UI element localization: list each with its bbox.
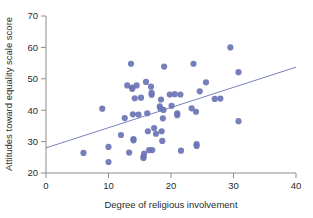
scatter-plot-figure: 203040506070 010203040 Degree of religio… <box>0 0 313 218</box>
scatter-point <box>197 88 203 94</box>
scatter-point <box>118 132 124 138</box>
scatter-point <box>190 61 196 67</box>
scatter-point <box>144 110 150 116</box>
scatter-point <box>172 91 178 97</box>
scatter-point <box>159 138 165 144</box>
scatter-point <box>132 95 138 101</box>
scatter-point <box>134 82 140 88</box>
scatter-point <box>151 125 157 131</box>
scatter-point <box>122 115 128 121</box>
y-axis-tick-label: 70 <box>27 10 38 21</box>
x-axis-tick-label: 30 <box>228 180 239 191</box>
scatter-point <box>161 63 167 69</box>
x-axis-tick-label: 40 <box>291 180 302 191</box>
scatter-point <box>158 96 164 102</box>
y-axis-tick-label: 30 <box>27 136 38 147</box>
scatter-point <box>203 79 209 85</box>
chart-canvas: 203040506070 010203040 Degree of religio… <box>0 0 313 218</box>
scatter-point <box>135 111 141 117</box>
y-axis-tick-label: 20 <box>27 167 38 178</box>
scatter-point <box>105 144 111 150</box>
scatter-point <box>235 118 241 124</box>
x-axis-tick-label: 10 <box>103 180 114 191</box>
scatter-point <box>227 44 233 50</box>
scatter-point <box>145 128 151 134</box>
scatter-point <box>212 96 218 102</box>
scatter-point <box>159 128 165 134</box>
scatter-point <box>178 148 184 154</box>
scatter-point <box>126 149 132 155</box>
scatter-point <box>174 110 180 116</box>
scatter-point <box>193 109 199 115</box>
y-axis-tick-label: 40 <box>27 105 38 116</box>
scatter-point <box>138 95 144 101</box>
scatter-point <box>148 84 154 90</box>
scatter-point <box>105 159 111 165</box>
scatter-point <box>217 95 223 101</box>
scatter-point <box>235 69 241 75</box>
scatter-point <box>130 137 136 143</box>
scatter-point <box>149 92 155 98</box>
scatter-point <box>160 107 166 113</box>
scatter-point <box>169 103 175 109</box>
scatter-point <box>177 91 183 97</box>
x-axis-tick-label: 0 <box>43 180 48 191</box>
y-axis-title: Attitudes toward equality scale score <box>3 17 14 171</box>
scatter-point <box>153 131 159 137</box>
scatter-point <box>130 111 136 117</box>
x-axis-title: Degree of religious involvement <box>104 199 237 210</box>
scatter-point <box>128 61 134 67</box>
x-axis-tick-label: 20 <box>166 180 177 191</box>
scatter-point <box>141 150 147 156</box>
y-axis-tick-label: 50 <box>27 73 38 84</box>
scatter-point <box>160 115 166 121</box>
scatter-point <box>149 147 155 153</box>
y-axis-tick-label: 60 <box>27 42 38 53</box>
scatter-point <box>80 150 86 156</box>
scatter-point <box>143 79 149 85</box>
scatter-point <box>99 106 105 112</box>
scatter-point <box>194 143 200 149</box>
